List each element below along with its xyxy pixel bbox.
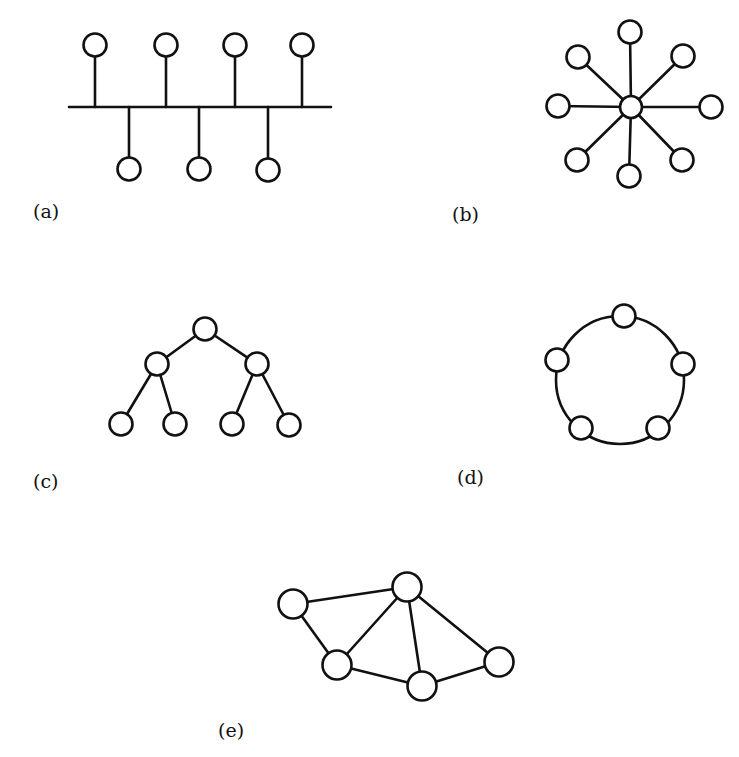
panel-c-label: (c) bbox=[33, 470, 58, 492]
panel-d-label: (d) bbox=[457, 466, 484, 488]
node bbox=[323, 651, 352, 680]
panel-d-ring-topology bbox=[546, 305, 695, 445]
node bbox=[671, 149, 694, 172]
node bbox=[279, 590, 308, 619]
node bbox=[155, 34, 178, 57]
node bbox=[700, 96, 723, 119]
node bbox=[566, 149, 589, 172]
node bbox=[110, 413, 133, 436]
panel-b-star-topology bbox=[547, 21, 723, 188]
panel-e-mesh-topology bbox=[279, 573, 514, 701]
node bbox=[393, 573, 422, 602]
node bbox=[408, 672, 437, 701]
hub-node bbox=[620, 96, 642, 118]
panel-a-bus-topology bbox=[69, 34, 331, 182]
node bbox=[188, 158, 211, 181]
node bbox=[547, 95, 570, 118]
network-topologies-figure: (a) (b) (c) (d) (e) bbox=[0, 0, 739, 757]
node bbox=[291, 34, 314, 57]
node bbox=[647, 417, 670, 440]
node bbox=[672, 45, 695, 68]
node bbox=[257, 159, 280, 182]
node bbox=[246, 353, 269, 376]
edge bbox=[407, 587, 499, 662]
node bbox=[118, 158, 141, 181]
node bbox=[567, 46, 590, 69]
edge bbox=[293, 587, 407, 604]
panel-c-tree-topology bbox=[110, 318, 301, 437]
panel-b-label: (b) bbox=[452, 203, 479, 225]
node bbox=[224, 34, 247, 57]
node bbox=[613, 305, 636, 328]
node bbox=[546, 349, 569, 372]
node bbox=[570, 417, 593, 440]
node bbox=[619, 21, 642, 44]
node bbox=[278, 414, 301, 437]
node bbox=[485, 648, 514, 677]
node bbox=[672, 353, 695, 376]
node bbox=[84, 34, 107, 57]
node bbox=[164, 413, 187, 436]
node bbox=[221, 413, 244, 436]
node bbox=[194, 318, 217, 341]
node bbox=[618, 165, 641, 188]
panel-a-label: (a) bbox=[33, 200, 59, 222]
panel-e-label: (e) bbox=[218, 719, 244, 741]
node bbox=[146, 353, 169, 376]
